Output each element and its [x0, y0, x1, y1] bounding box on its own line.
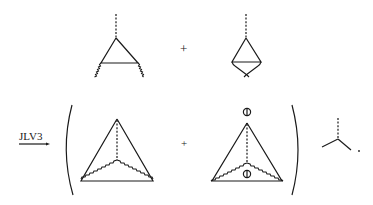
- triangle-loop: [101, 38, 138, 63]
- open-parenthesis: [66, 105, 73, 195]
- wavy-leg-right: [138, 63, 144, 77]
- diagram-d: [211, 108, 283, 181]
- trailing-period: [358, 150, 360, 152]
- jlv3-label: JLV3: [19, 130, 43, 142]
- feynman-diagram-figure: .ln { stroke: #1a1a1a; stroke-width: 1.2…: [0, 0, 373, 205]
- arrow-right-icon: [19, 143, 50, 146]
- close-parenthesis: [292, 105, 298, 195]
- wavy-inner-left: [81, 160, 117, 179]
- wavy-inner-right: [117, 160, 153, 179]
- wavy-inner-right: [247, 163, 283, 181]
- plus-sign-top: +: [180, 41, 187, 56]
- diagram-c: [81, 119, 153, 181]
- plus-sign-bottom: +: [181, 137, 187, 149]
- insertion-icon-top: [243, 108, 250, 115]
- wavy-cross-2: [244, 62, 261, 77]
- wavy-leg-left: [95, 63, 102, 77]
- triangle-loop: [232, 38, 261, 62]
- wavy-inner-left: [211, 163, 247, 181]
- vertex-leg-right: [338, 139, 351, 150]
- diagram-a: [95, 14, 144, 77]
- vertex-leg-left: [322, 139, 338, 147]
- vertex-three-point: [322, 118, 360, 152]
- insertion-icon-bottom: [243, 170, 250, 177]
- diagram-b: [232, 14, 261, 77]
